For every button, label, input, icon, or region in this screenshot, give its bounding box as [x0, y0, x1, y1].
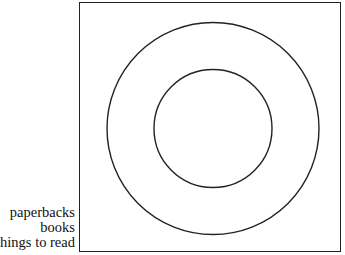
- legend-labels: paperbacks books things to read: [0, 205, 75, 250]
- books-outer-circle: [107, 23, 319, 235]
- label-books: books: [0, 220, 75, 235]
- label-things-to-read: things to read: [0, 235, 75, 250]
- label-paperbacks: paperbacks: [0, 205, 75, 220]
- paperbacks-inner-circle: [154, 70, 272, 188]
